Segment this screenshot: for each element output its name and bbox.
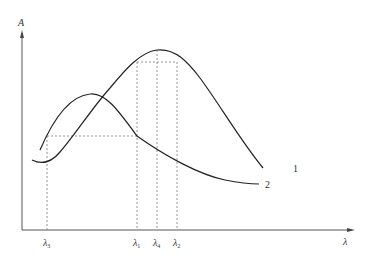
axes <box>20 30 355 232</box>
marker-lambda4: λ4 <box>153 238 160 249</box>
y-axis-label: A <box>18 18 24 28</box>
x-axis-arrow-icon <box>347 228 355 232</box>
marker-subscript: 4 <box>157 243 160 249</box>
curve-2-label: 2 <box>265 180 270 190</box>
marker-lambda3: λ3 <box>43 238 50 249</box>
curve-2 <box>40 94 259 184</box>
marker-lambda1: λ1 <box>133 238 140 249</box>
x-axis-label: λ <box>343 237 347 247</box>
curve-1 <box>32 50 263 168</box>
curve-1-label: 1 <box>293 164 298 174</box>
guide-lines <box>47 50 177 230</box>
diagram-canvas <box>0 0 368 261</box>
marker-subscript: 1 <box>137 243 140 249</box>
marker-lambda2: λ2 <box>173 238 180 249</box>
y-axis-arrow-icon <box>20 30 24 38</box>
marker-subscript: 3 <box>47 243 50 249</box>
marker-subscript: 2 <box>177 243 180 249</box>
